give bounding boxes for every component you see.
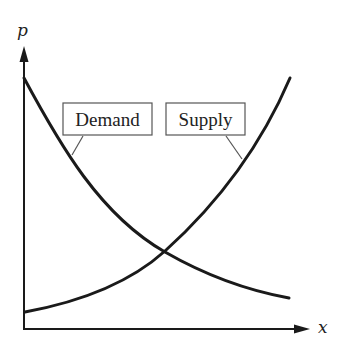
supply-leader-line xyxy=(226,136,242,159)
y-axis-arrow-icon xyxy=(20,46,29,62)
supply-label-box: Supply xyxy=(166,103,245,159)
supply-label: Supply xyxy=(179,109,233,130)
x-axis: x xyxy=(23,317,328,337)
y-axis: p xyxy=(17,20,29,330)
demand-leader-line xyxy=(72,136,83,155)
x-axis-arrow-icon xyxy=(294,325,310,334)
x-axis-label: x xyxy=(318,317,328,337)
y-axis-label: p xyxy=(17,20,28,40)
demand-label: Demand xyxy=(75,109,140,130)
demand-label-box: Demand xyxy=(63,103,152,155)
supply-demand-diagram: p x Demand Supply xyxy=(0,0,339,348)
